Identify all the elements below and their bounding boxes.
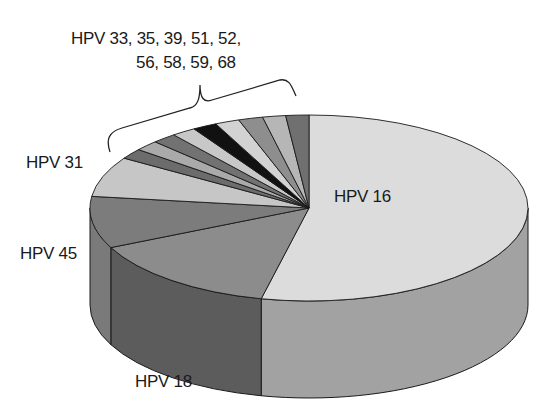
label-hpv16: HPV 16 xyxy=(334,187,391,207)
label-hpv45: HPV 45 xyxy=(20,244,77,264)
label-group-line1: HPV 33, 35, 39, 51, 52, xyxy=(71,29,241,49)
pie-top-faces xyxy=(90,115,528,301)
label-hpv18: HPV 18 xyxy=(135,372,192,392)
label-group-line2: 56, 58, 59, 68 xyxy=(136,53,236,73)
label-hpv31: HPV 31 xyxy=(26,153,83,173)
pie-chart-3d xyxy=(0,0,548,408)
